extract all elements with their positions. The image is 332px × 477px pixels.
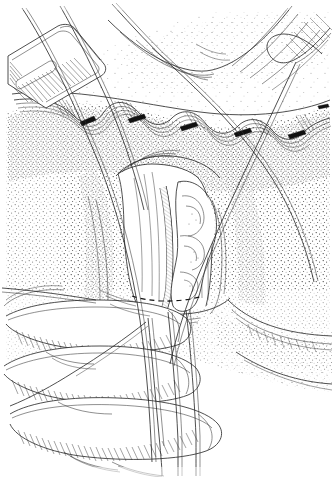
surgical-illustration-figure (0, 0, 332, 477)
illustration-canvas (0, 0, 332, 477)
